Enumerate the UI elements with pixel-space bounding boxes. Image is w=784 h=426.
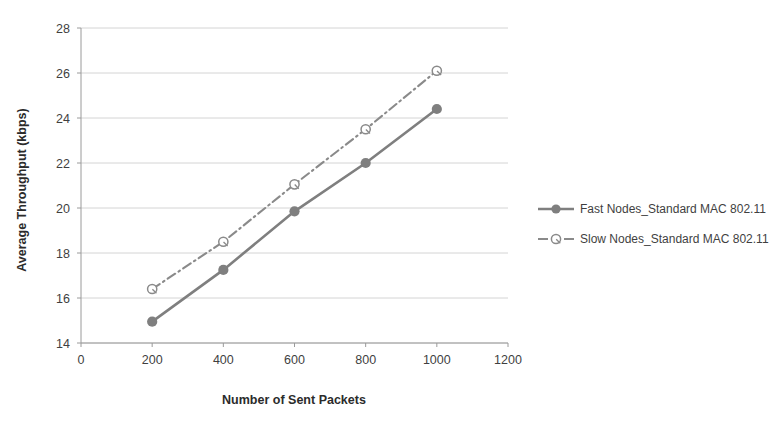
x-tick-label: 800 bbox=[355, 353, 376, 367]
y-tick-label: 26 bbox=[56, 67, 70, 81]
legend-label: Fast Nodes_Standard MAC 802.11 bbox=[580, 202, 766, 216]
x-axis-title: Number of Sent Packets bbox=[222, 393, 366, 407]
y-axis-title: Average Throughput (kbps) bbox=[15, 108, 29, 271]
y-tick-label: 14 bbox=[56, 337, 70, 351]
data-point-marker-fast-nodes bbox=[432, 104, 442, 114]
y-tick-label: 28 bbox=[56, 22, 70, 36]
chart-canvas: 1416182022242628 020040060080010001200 A… bbox=[0, 0, 784, 426]
y-tick-label: 20 bbox=[56, 202, 70, 216]
legend-label: Slow Nodes_Standard MAC 802.11 bbox=[580, 232, 769, 246]
x-tick-label: 0 bbox=[78, 353, 85, 367]
y-tick-label: 16 bbox=[56, 292, 70, 306]
x-tick-label: 400 bbox=[213, 353, 234, 367]
legend-marker-fast bbox=[551, 204, 560, 213]
data-point-marker-fast-nodes bbox=[218, 265, 228, 275]
x-tick-label: 600 bbox=[284, 353, 305, 367]
x-tick-label: 1200 bbox=[494, 353, 522, 367]
x-tick-label: 1000 bbox=[423, 353, 451, 367]
line-chart-figure: 1416182022242628 020040060080010001200 A… bbox=[0, 0, 784, 426]
data-point-marker-fast-nodes bbox=[147, 317, 157, 327]
y-tick-label: 18 bbox=[56, 247, 70, 261]
x-tick-label: 200 bbox=[142, 353, 163, 367]
y-tick-label: 22 bbox=[56, 157, 70, 171]
data-point-marker-fast-nodes bbox=[361, 158, 371, 168]
y-tick-label: 24 bbox=[56, 112, 70, 126]
data-point-marker-fast-nodes bbox=[289, 206, 299, 216]
